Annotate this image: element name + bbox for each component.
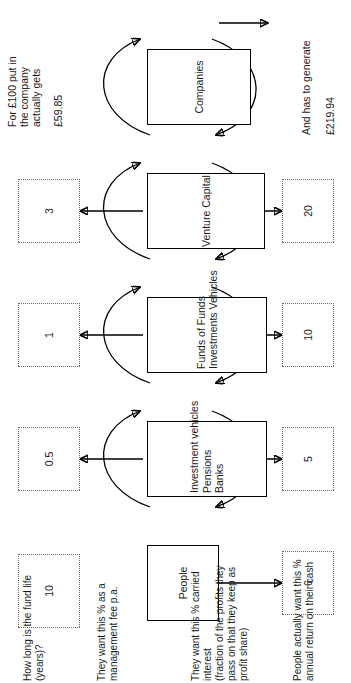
label-carried-interest: They want this % carried interest (fract…: [190, 545, 250, 681]
fee-box-funds-of-funds-value: 1: [43, 332, 55, 338]
node-companies[interactable]: Companies: [147, 49, 251, 125]
carry-box-investment-vehicles[interactable]: 5: [282, 427, 334, 491]
node-funds-of-funds-line-1: Investments Vehicles: [207, 270, 220, 369]
node-investment-vehicles-line-2: Banks: [213, 464, 226, 493]
node-funds-of-funds[interactable]: Funds of Funds Investments Vehicles: [147, 297, 267, 373]
label-company-gets-value: £59.85: [52, 9, 64, 127]
fee-box-funds-of-funds[interactable]: 1: [18, 303, 80, 367]
label-annual-return: People actually want this % annual retur…: [292, 541, 316, 681]
label-fund-life: How long is the fund life (years)?: [22, 561, 46, 681]
node-funds-of-funds-line-0: Funds of Funds: [195, 296, 208, 369]
diagram-canvas: People Investment vehicles Pensions Bank…: [0, 0, 351, 683]
node-investment-vehicles[interactable]: Investment vehicles Pensions Banks: [147, 421, 267, 497]
node-companies-line-0: Companies: [193, 60, 206, 113]
label-has-to-generate-value: £219.94: [324, 3, 336, 135]
label-management-fee: They want this % as a management fee p.a…: [96, 551, 120, 681]
label-has-to-generate: And has to generate: [300, 3, 312, 135]
node-venture-capital[interactable]: Venture Capital: [147, 173, 265, 249]
carry-box-funds-of-funds-value: 10: [302, 329, 314, 341]
carry-box-venture-capital-value: 20: [302, 205, 314, 217]
node-venture-capital-line-0: Venture Capital: [200, 175, 213, 247]
fee-box-venture-capital[interactable]: 3: [18, 179, 80, 243]
carry-box-investment-vehicles-value: 5: [302, 456, 314, 462]
fee-box-investment-vehicles[interactable]: 0.5: [18, 427, 80, 491]
node-investment-vehicles-line-0: Investment vehicles: [188, 401, 201, 493]
fee-box-venture-capital-value: 3: [43, 208, 55, 214]
fee-box-investment-vehicles-value: 0.5: [43, 452, 55, 467]
label-company-gets: For £100 put in the company actually get…: [6, 9, 42, 127]
node-people-line-0: People: [177, 567, 190, 600]
carry-box-venture-capital[interactable]: 20: [282, 179, 334, 243]
carry-box-funds-of-funds[interactable]: 10: [282, 303, 334, 367]
node-investment-vehicles-line-1: Pensions: [201, 450, 214, 493]
diagram-page: People Investment vehicles Pensions Bank…: [0, 0, 351, 683]
